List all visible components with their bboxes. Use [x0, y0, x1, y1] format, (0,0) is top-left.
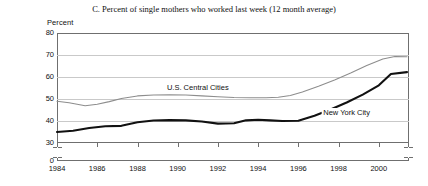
x-tick-1998 [339, 143, 340, 147]
x-tick-1990 [178, 143, 179, 147]
x-tick-label-1988: 1988 [129, 164, 146, 173]
axis-break-right-icon [404, 147, 413, 158]
x-tick-label-1986: 1986 [89, 164, 106, 173]
x-tick-label-1984: 1984 [49, 164, 66, 173]
y-axis-tick-labels: 80 70 60 50 40 30 0 [30, 0, 54, 186]
axis-break-left-icon [53, 147, 62, 158]
y-tick-30: 30 [32, 139, 54, 147]
x-tick-label-2000: 2000 [370, 164, 387, 173]
plot-area: U.S. Central Cities New York City [57, 33, 409, 143]
x-tick-1984 [57, 143, 58, 147]
x-tick-1988 [138, 143, 139, 147]
x-tick-1986 [97, 143, 98, 147]
x-tick-label-1990: 1990 [169, 164, 186, 173]
series-lines [57, 33, 409, 143]
y-tick-70: 70 [32, 51, 54, 59]
y-tick-60: 60 [32, 73, 54, 81]
x-tick-2000 [379, 143, 380, 147]
chart-title: C. Percent of single mothers who worked … [0, 4, 428, 15]
series-label-new-york-city: New York City [321, 108, 372, 117]
zero-baseline [57, 160, 409, 161]
x-tick-label-1992: 1992 [210, 164, 227, 173]
x-tick-1996 [298, 143, 299, 147]
y-tick-80: 80 [32, 29, 54, 37]
chart-figure: C. Percent of single mothers who worked … [0, 0, 428, 186]
x-tick-label-1994: 1994 [250, 164, 267, 173]
series-label-us-central-cities: U.S. Central Cities [165, 83, 231, 92]
x-tick-1992 [218, 143, 219, 147]
y-tick-50: 50 [32, 95, 54, 103]
x-tick-label-1996: 1996 [290, 164, 307, 173]
y-tick-40: 40 [32, 117, 54, 125]
x-tick-1994 [258, 143, 259, 147]
x-tick-label-1998: 1998 [330, 164, 347, 173]
